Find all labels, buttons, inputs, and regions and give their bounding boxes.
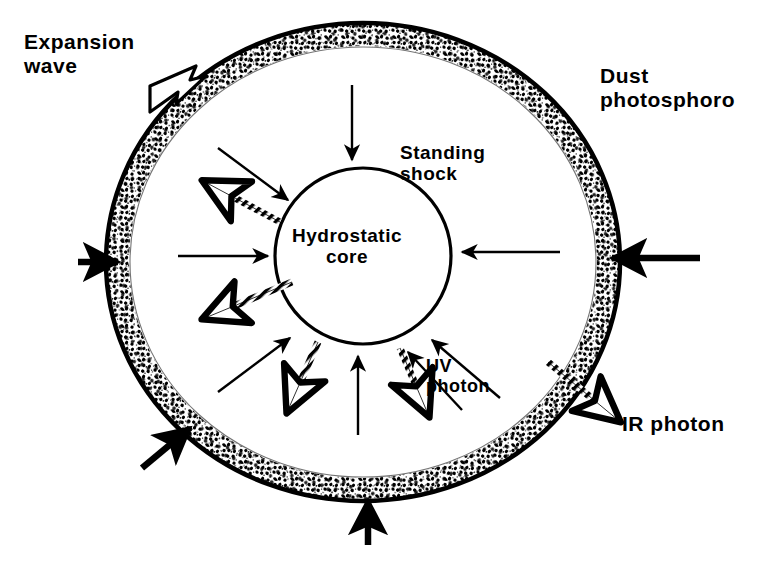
- label-ir-photon: IR photon: [622, 412, 724, 436]
- label-expansion-wave: Expansion wave: [24, 30, 135, 77]
- label-hydrostatic-core: Hydrostatic core: [287, 225, 407, 268]
- label-dust-photosphere: Dust photosphoro: [600, 64, 735, 111]
- figure-canvas: Expansion wave Dust photosphoro Standing…: [0, 0, 772, 571]
- label-standing-shock: Standing shock: [400, 142, 485, 185]
- label-uv-photon: UV photon: [426, 356, 490, 396]
